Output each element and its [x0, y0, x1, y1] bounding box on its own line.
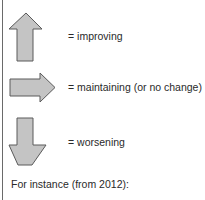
maintaining-label: = maintaining (or no change) [68, 81, 202, 93]
up-arrow-icon [9, 13, 42, 61]
worsening-label: = worsening [68, 136, 125, 148]
down-arrow-icon [9, 118, 46, 165]
improving-label: = improving [68, 30, 123, 42]
right-arrow-icon [10, 73, 55, 102]
instance-caption: For instance (from 2012): [11, 178, 129, 190]
